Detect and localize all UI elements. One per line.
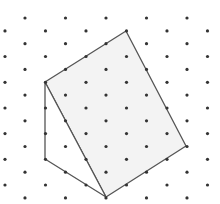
grid-dot — [23, 94, 26, 97]
grid-dot — [145, 16, 148, 19]
grid-dot — [145, 94, 148, 97]
grid-dot — [125, 183, 128, 186]
grid-dot — [3, 183, 6, 186]
grid-dot — [3, 132, 6, 135]
grid-dot — [145, 196, 148, 199]
grid-dot — [125, 55, 128, 58]
grid-dot — [44, 106, 47, 109]
grid-dot — [64, 145, 67, 148]
grid-dot — [23, 42, 26, 45]
grid-dot — [104, 42, 107, 45]
grid-dot — [185, 119, 188, 122]
grid-dot — [165, 55, 168, 58]
grid-dot — [145, 145, 148, 148]
grid-dot — [145, 68, 148, 71]
grid-dot — [125, 106, 128, 109]
grid-dot — [165, 106, 168, 109]
grid-dot — [23, 196, 26, 199]
grid-dot — [104, 68, 107, 71]
grid-dot — [206, 106, 209, 109]
grid-dot — [84, 183, 87, 186]
grid-dot — [3, 158, 6, 161]
grid-dot — [23, 16, 26, 19]
grid-dot — [145, 171, 148, 174]
grid-dot — [206, 55, 209, 58]
grid-dot — [125, 158, 128, 161]
grid-dot — [165, 29, 168, 32]
grid-dot — [104, 145, 107, 148]
grid-dot — [23, 119, 26, 122]
grid-dot — [125, 81, 128, 84]
grid-dot — [185, 68, 188, 71]
grid-dot — [185, 196, 188, 199]
grid-dot — [3, 106, 6, 109]
grid-dot — [145, 119, 148, 122]
grid-dot — [64, 119, 67, 122]
grid-dot — [44, 183, 47, 186]
grid-dot — [44, 29, 47, 32]
grid-dot — [125, 29, 128, 32]
grid-dot — [185, 42, 188, 45]
grid-dot — [104, 196, 107, 199]
grid-dot — [3, 29, 6, 32]
grid-dot — [104, 16, 107, 19]
grid-dot — [185, 16, 188, 19]
grid-dot — [206, 132, 209, 135]
grid-dot — [165, 183, 168, 186]
grid-dot — [104, 119, 107, 122]
isometric-dot-diagram — [0, 0, 220, 204]
grid-dot — [185, 145, 188, 148]
grid-dot — [104, 171, 107, 174]
grid-dot — [64, 94, 67, 97]
grid-dot — [165, 81, 168, 84]
grid-dot — [84, 55, 87, 58]
grid-dot — [145, 42, 148, 45]
grid-dot — [64, 42, 67, 45]
grid-dot — [64, 171, 67, 174]
grid-dot — [104, 94, 107, 97]
grid-dot — [44, 158, 47, 161]
grid-dot — [84, 81, 87, 84]
grid-dot — [44, 81, 47, 84]
grid-dot — [23, 171, 26, 174]
grid-dot — [84, 132, 87, 135]
grid-dot — [185, 94, 188, 97]
grid-dot — [23, 68, 26, 71]
grid-dot — [84, 158, 87, 161]
grid-dot — [64, 16, 67, 19]
grid-dot — [206, 29, 209, 32]
grid-dot — [44, 55, 47, 58]
grid-dot — [23, 145, 26, 148]
grid-dot — [64, 68, 67, 71]
grid-dot — [165, 158, 168, 161]
grid-dot — [165, 132, 168, 135]
grid-dot — [44, 132, 47, 135]
grid-dot — [206, 158, 209, 161]
grid-dot — [64, 196, 67, 199]
grid-dot — [84, 29, 87, 32]
grid-dot — [3, 55, 6, 58]
grid-dot — [185, 171, 188, 174]
grid-dot — [125, 132, 128, 135]
grid-dot — [206, 81, 209, 84]
grid-dot — [3, 81, 6, 84]
grid-dot — [206, 183, 209, 186]
grid-dot — [84, 106, 87, 109]
